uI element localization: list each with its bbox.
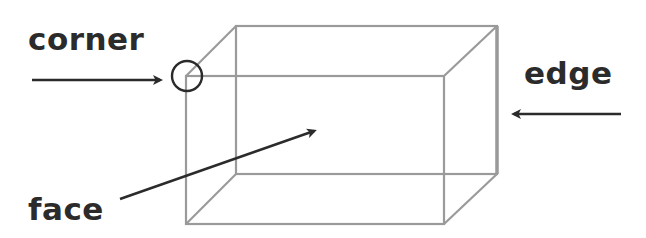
corner-label: corner xyxy=(28,24,144,55)
face-label: face xyxy=(28,194,104,225)
cuboid-diagram: corner edge face xyxy=(0,0,646,238)
front-face-outline xyxy=(186,76,444,224)
face-arrow-icon xyxy=(120,131,314,199)
edge-label: edge xyxy=(524,58,612,89)
back-face-outline xyxy=(236,26,497,174)
cuboid xyxy=(186,26,497,224)
